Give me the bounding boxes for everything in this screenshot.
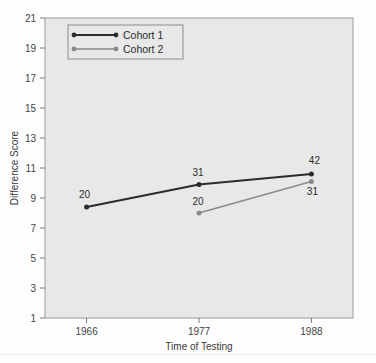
legend-marker-end (114, 33, 119, 38)
data-point-marker (309, 172, 314, 177)
y-tick-label: 15 (25, 103, 37, 114)
y-tick-label: 11 (26, 163, 37, 174)
data-point-marker (309, 179, 314, 184)
legend-marker-start (72, 47, 77, 52)
x-tick-label: 1977 (188, 326, 211, 337)
y-tick-label: 9 (30, 193, 36, 204)
data-point-label: 42 (309, 155, 321, 166)
legend-label[interactable]: Cohort 2 (123, 43, 163, 55)
y-tick-label: 1 (30, 313, 36, 324)
y-axis-title: Difference Score (9, 130, 20, 205)
data-point-label: 31 (307, 186, 319, 197)
y-tick-label: 7 (30, 223, 36, 234)
data-point-label: 20 (192, 196, 204, 207)
data-point-marker (197, 211, 202, 216)
y-tick-label: 3 (30, 283, 36, 294)
line-chart: 13579111315171921 196619771988 203142203… (0, 0, 376, 363)
y-tick-label: 19 (25, 43, 37, 54)
x-axis-title: Time of Testing (165, 341, 232, 352)
data-point-marker (84, 205, 89, 210)
data-point-label: 20 (79, 189, 91, 200)
x-tick-label: 1988 (300, 326, 323, 337)
y-tick-label: 17 (25, 73, 37, 84)
bottom-divider (0, 354, 376, 355)
y-tick-label: 13 (25, 133, 37, 144)
x-tick-label: 1966 (75, 326, 98, 337)
legend-label[interactable]: Cohort 1 (123, 29, 163, 41)
legend-marker-end (114, 47, 119, 52)
data-point-label: 31 (192, 167, 204, 178)
y-tick-label: 5 (30, 253, 36, 264)
chart-canvas: 13579111315171921 196619771988 203142203… (0, 0, 376, 363)
legend-marker-start (72, 33, 77, 38)
y-tick-label: 21 (25, 13, 37, 24)
chart-legend[interactable]: Cohort 1Cohort 2 (68, 25, 183, 59)
data-point-marker (197, 182, 202, 187)
